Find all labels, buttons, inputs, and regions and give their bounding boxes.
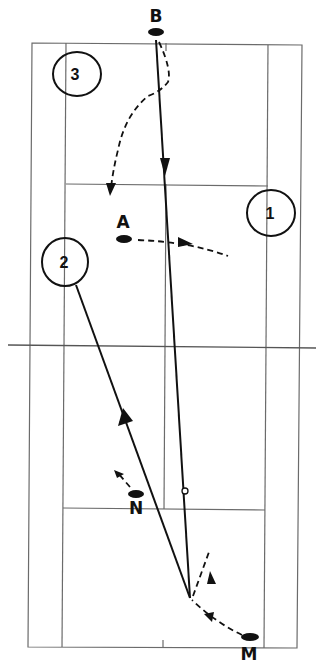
player-a-marker bbox=[116, 235, 132, 243]
player-n-label: N bbox=[129, 500, 143, 517]
player-a-label: A bbox=[116, 214, 129, 231]
position-1-label: 1 bbox=[266, 206, 275, 222]
bottom-center-line bbox=[164, 347, 165, 509]
movement-arrow-m-forward-icon bbox=[207, 571, 216, 584]
position-3-label: 3 bbox=[71, 67, 80, 83]
player-b-marker bbox=[148, 28, 164, 36]
badminton-court-diagram: B A N M 3 1 2 bbox=[0, 0, 316, 671]
shot-arrow-up-head bbox=[118, 408, 133, 426]
shot-arrow-down-icon bbox=[160, 158, 170, 176]
right-singles-sideline bbox=[264, 45, 268, 648]
movement-path-m bbox=[192, 600, 242, 635]
player-b-label: B bbox=[150, 8, 163, 25]
movement-path-m-forward bbox=[193, 552, 209, 596]
court-svg bbox=[0, 0, 316, 671]
position-2-label: 2 bbox=[60, 255, 69, 271]
movement-arrow-b-icon bbox=[106, 183, 116, 196]
movement-arrow-n-icon bbox=[114, 470, 124, 478]
shot-line-b-to-m bbox=[156, 40, 190, 598]
player-m-label: M bbox=[241, 646, 258, 663]
shuttle-contact-marker bbox=[182, 488, 188, 494]
movement-arrow-m-icon bbox=[204, 612, 214, 622]
net-line bbox=[8, 345, 316, 348]
player-m-marker bbox=[241, 633, 259, 641]
movement-paths bbox=[111, 42, 242, 635]
top-short-service-line bbox=[66, 184, 268, 186]
